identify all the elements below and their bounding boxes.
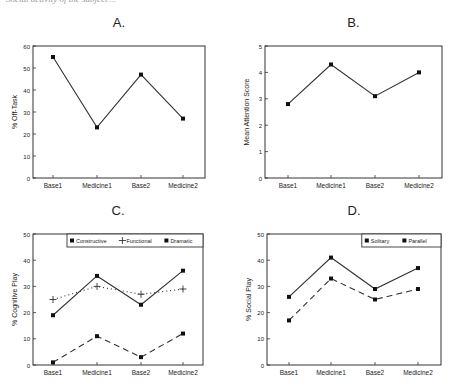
square-marker (365, 239, 369, 243)
y-tick-label: 5 (259, 44, 263, 50)
x-tick-label: Base2 (132, 182, 151, 189)
square-marker (139, 355, 143, 359)
x-tick-label: Base1 (279, 182, 298, 189)
x-tick-label: Base2 (132, 369, 151, 376)
legend: SolitaryParallel (362, 234, 441, 247)
square-marker (51, 360, 55, 364)
y-tick-label: 30 (257, 284, 264, 290)
legend: ConstructiveFunctionalDramatic (67, 234, 203, 247)
legend-label: Solitary (371, 238, 390, 244)
series-attention (286, 62, 421, 106)
series-constructive (51, 269, 185, 318)
y-axis-label: % Cognitive Play (11, 273, 19, 326)
series-line (53, 334, 183, 363)
legend-item-constructive: Constructive (70, 238, 107, 244)
y-tick-label: 30 (23, 110, 30, 116)
chart-panel-c: C.01020304050% Cognitive PlayBase1Medici… (11, 203, 203, 376)
square-marker (139, 73, 143, 77)
plot-frame (265, 46, 442, 178)
square-marker (70, 239, 74, 243)
square-marker (95, 125, 99, 129)
square-marker (51, 313, 55, 317)
series-off-task (51, 55, 185, 129)
x-tick-label: Medicine2 (404, 182, 434, 189)
y-axis-label: Mean Attention Score (243, 78, 250, 145)
series-parallel (287, 277, 420, 323)
legend-label: Parallel (408, 238, 426, 244)
square-marker (373, 94, 377, 98)
square-marker (417, 70, 421, 74)
y-tick-label: 0 (27, 176, 31, 182)
chart-panel-d: D.01020304050% Social PlayBase1Medicine1… (245, 203, 441, 376)
y-tick-label: 0 (27, 363, 31, 369)
series-line (53, 271, 183, 316)
y-tick-label: 0 (261, 363, 265, 369)
y-tick-label: 40 (23, 88, 30, 94)
x-tick-label: Base2 (366, 369, 385, 376)
series-line (289, 279, 418, 321)
x-tick-label: Medicine1 (82, 369, 112, 376)
x-tick-label: Medicine1 (82, 182, 112, 189)
y-tick-label: 30 (23, 284, 30, 290)
y-tick-label: 40 (23, 258, 30, 264)
square-marker (95, 274, 99, 278)
square-marker (287, 318, 291, 322)
y-tick-label: 50 (257, 232, 264, 238)
square-marker (181, 332, 185, 336)
square-marker (139, 303, 143, 307)
square-marker (164, 239, 168, 243)
square-marker (416, 266, 420, 270)
legend-label: Functional (126, 238, 151, 244)
y-tick-label: 3 (259, 96, 263, 102)
square-marker (373, 298, 377, 302)
y-tick-label: 1 (259, 149, 263, 155)
series-dramatic (51, 332, 185, 365)
y-tick-label: 0 (259, 176, 263, 182)
square-marker (181, 117, 185, 121)
y-tick-label: 20 (23, 132, 30, 138)
figure: A.0102030405060% Off-TaskBase1Medicine1B… (0, 0, 457, 390)
y-axis-label: % Off-Task (11, 94, 18, 129)
chart-title: C. (112, 203, 125, 218)
y-tick-label: 2 (259, 123, 263, 129)
square-marker (329, 256, 333, 260)
x-tick-label: Medicine2 (403, 369, 433, 376)
x-tick-label: Base1 (44, 182, 63, 189)
series-solitary (287, 256, 420, 299)
y-tick-label: 4 (259, 70, 263, 76)
square-marker (416, 287, 420, 291)
y-tick-label: 50 (23, 232, 30, 238)
plot-frame (267, 234, 441, 365)
chart-panel-b: B.012345Mean Attention ScoreBase1Medicin… (243, 15, 442, 189)
x-tick-label: Base2 (366, 182, 385, 189)
x-tick-label: Medicine2 (168, 369, 198, 376)
y-tick-label: 20 (23, 310, 30, 316)
plot-frame (33, 234, 203, 365)
legend-label: Constructive (76, 238, 107, 244)
y-tick-label: 50 (23, 66, 30, 72)
y-tick-label: 40 (257, 258, 264, 264)
series-line (288, 64, 419, 104)
square-marker (286, 102, 290, 106)
y-tick-label: 10 (23, 154, 30, 160)
square-marker (51, 55, 55, 59)
square-marker (181, 269, 185, 273)
x-tick-label: Base1 (44, 369, 63, 376)
square-marker (402, 239, 406, 243)
chart-title: D. (348, 203, 361, 218)
chart-title: B. (347, 15, 359, 30)
square-marker (287, 295, 291, 299)
square-marker (329, 277, 333, 281)
square-marker (329, 62, 333, 66)
x-tick-label: Medicine2 (168, 182, 198, 189)
y-tick-label: 10 (257, 336, 264, 342)
chart-panel-a: A.0102030405060% Off-TaskBase1Medicine1B… (11, 15, 205, 189)
y-tick-label: 60 (23, 44, 30, 50)
square-marker (373, 287, 377, 291)
y-axis-label: % Social Play (245, 278, 253, 321)
x-tick-label: Medicine1 (316, 182, 346, 189)
square-marker (95, 334, 99, 338)
chart-title: A. (113, 15, 125, 30)
y-tick-label: 20 (257, 310, 264, 316)
series-line (289, 258, 418, 297)
